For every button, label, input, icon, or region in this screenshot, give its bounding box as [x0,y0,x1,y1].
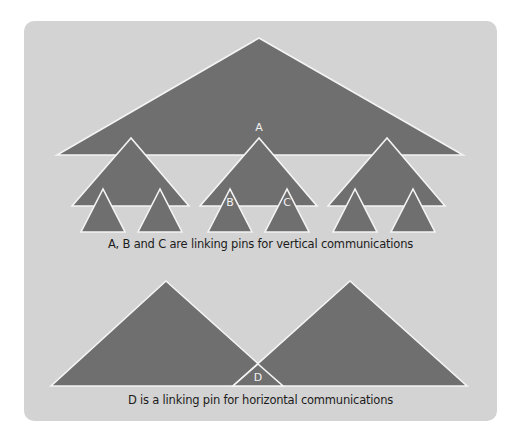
vertical-structure: A B C [57,38,463,232]
pin-label-d: D [254,371,262,384]
pin-label-b: B [226,196,234,209]
pin-label-c: C [283,196,291,209]
vertical-caption: A, B and C are linking pins for vertical… [24,237,497,251]
pin-label-a: A [255,121,263,134]
horizontal-structure: D [51,281,467,386]
right-group-triangle [233,281,467,386]
top-group-triangle [57,38,463,155]
linking-pin-diagram: A B C D [0,0,520,446]
horizontal-caption: D is a linking pin for horizontal commun… [24,393,497,407]
left-group-triangle [51,281,283,386]
